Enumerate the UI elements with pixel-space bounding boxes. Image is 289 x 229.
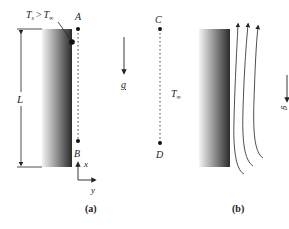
gravity-label-a: g xyxy=(121,79,126,90)
caption-b: (b) xyxy=(232,203,244,215)
point-c-label: C xyxy=(155,14,162,25)
gravity-label-b: g xyxy=(281,106,289,110)
surface-temp-label: Ts>T∞ xyxy=(26,9,54,21)
panel-a: L A B Ts>T∞ g x y (a) xyxy=(14,9,126,215)
point-b-dot xyxy=(76,139,80,143)
flow-line-1 xyxy=(234,25,244,174)
flow-line-3 xyxy=(254,27,263,158)
panel-b: C D T∞ g (b) xyxy=(155,14,289,215)
point-a-label: A xyxy=(74,11,82,22)
flow-line-2 xyxy=(243,25,253,166)
ambient-temp-label: T∞ xyxy=(171,88,182,100)
surface-point-dot xyxy=(69,39,75,45)
heated-plate-b xyxy=(199,29,230,167)
point-c-dot xyxy=(158,27,162,31)
point-a-dot xyxy=(76,27,80,31)
point-d-dot xyxy=(158,141,162,145)
y-axis-label: y xyxy=(90,185,95,195)
heated-plate-a xyxy=(42,29,72,167)
point-b-label: B xyxy=(74,148,80,159)
point-d-label: D xyxy=(155,149,164,160)
length-label: L xyxy=(16,93,23,105)
diagram-canvas: L A B Ts>T∞ g x y (a) C D T∞ xyxy=(0,0,289,229)
x-axis-label: x xyxy=(83,159,88,169)
caption-a: (a) xyxy=(85,203,97,215)
